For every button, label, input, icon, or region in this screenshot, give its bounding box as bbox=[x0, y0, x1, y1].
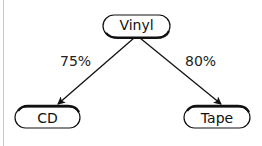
edge-label-vinyl-cd: 75% bbox=[60, 53, 91, 69]
node-tape: Tape bbox=[184, 108, 250, 128]
node-vinyl: Vinyl bbox=[103, 15, 170, 35]
edge-vinyl-cd bbox=[58, 38, 134, 104]
edge-vinyl-tape bbox=[140, 38, 221, 104]
node-cd: CD bbox=[15, 108, 80, 128]
edge-label-vinyl-tape: 80% bbox=[185, 53, 216, 69]
